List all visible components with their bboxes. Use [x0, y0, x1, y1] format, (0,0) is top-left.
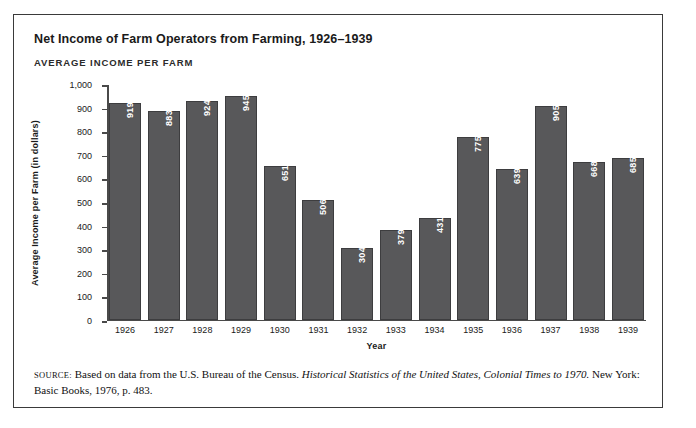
y-axis-tick-label: 100 — [48, 292, 92, 302]
bar-slot: 905 — [535, 86, 567, 320]
bar-slot: 379 — [380, 86, 412, 320]
x-axis-tick-label: 1931 — [302, 325, 334, 335]
x-axis-tick-label: 1936 — [496, 325, 528, 335]
bar[interactable]: 775 — [457, 137, 489, 320]
bar-slot: 883 — [148, 86, 180, 320]
bar[interactable]: 304 — [341, 248, 373, 320]
bar-value-label: 304 — [357, 247, 367, 263]
source-label: Source: — [34, 370, 72, 380]
bar-value-label: 775 — [473, 136, 483, 152]
bar-series: 9198839249456515063043794317756399056686… — [109, 86, 644, 320]
y-axis-tick-mark — [102, 156, 107, 158]
x-axis-tick-label: 1933 — [380, 325, 412, 335]
bar-slot: 919 — [109, 86, 141, 320]
bar[interactable]: 506 — [302, 200, 334, 319]
x-axis-tick-label: 1937 — [535, 325, 567, 335]
y-axis-tick-label: 400 — [48, 222, 92, 232]
bar-value-label: 506 — [318, 199, 328, 215]
y-axis-tick-label: 300 — [48, 245, 92, 255]
bar-value-label: 945 — [241, 96, 251, 112]
y-axis-tick-label: 600 — [48, 174, 92, 184]
y-axis-tick-labels: 01002003004005006007008009001,000 — [48, 85, 92, 321]
bar-value-label: 919 — [125, 102, 135, 118]
x-axis-tick-labels: 1926192719281929193019311932193319341935… — [109, 325, 644, 335]
y-axis-tick-label: 1,000 — [48, 80, 92, 90]
bar-value-label: 639 — [512, 168, 522, 184]
bar-slot: 685 — [612, 86, 644, 320]
source-text-before: Based on data from the U.S. Bureau of th… — [75, 368, 299, 380]
y-axis-tick-label: 0 — [48, 316, 92, 326]
y-axis-tick-mark — [102, 203, 107, 205]
bar[interactable]: 905 — [535, 106, 567, 320]
x-axis-tick-label: 1934 — [419, 325, 451, 335]
bar-slot: 651 — [264, 86, 296, 320]
bar[interactable]: 379 — [380, 230, 412, 319]
bar-value-label: 431 — [435, 217, 445, 233]
bar[interactable]: 639 — [496, 169, 528, 320]
y-axis-tick-mark — [102, 297, 107, 299]
bar[interactable]: 431 — [419, 218, 451, 320]
y-axis-tick-mark — [102, 250, 107, 252]
bar[interactable]: 945 — [225, 96, 257, 319]
y-axis-tick-label: 500 — [48, 198, 92, 208]
source-work-title: Historical Statistics of the United Stat… — [302, 368, 590, 380]
bar-slot: 668 — [573, 86, 605, 320]
y-axis-tick-label: 700 — [48, 151, 92, 161]
bar-slot: 639 — [496, 86, 528, 320]
x-axis-tick-label: 1929 — [225, 325, 257, 335]
bar[interactable]: 651 — [264, 166, 296, 320]
y-axis-tick-mark — [102, 109, 107, 111]
y-axis-tick-mark — [102, 227, 107, 229]
x-axis-title: Year — [109, 341, 644, 351]
bar-slot: 945 — [225, 86, 257, 320]
bar-value-label: 651 — [280, 165, 290, 181]
y-axis-tick-label: 800 — [48, 127, 92, 137]
bar-value-label: 924 — [202, 100, 212, 116]
x-axis-tick-label: 1927 — [148, 325, 180, 335]
chart-area: Average Income per Farm (in dollars) 010… — [34, 85, 646, 353]
bar-value-label: 668 — [589, 161, 599, 177]
bar[interactable]: 919 — [109, 103, 141, 320]
bar[interactable]: 685 — [612, 158, 644, 320]
figure-title: Net Income of Farm Operators from Farmin… — [34, 32, 373, 46]
y-axis-tick-mark — [102, 132, 107, 134]
bar[interactable]: 668 — [573, 162, 605, 320]
y-axis-tick-mark — [102, 85, 107, 87]
y-axis-tick-mark — [102, 274, 107, 276]
bar-value-label: 905 — [551, 105, 561, 121]
bar-value-label: 883 — [164, 110, 174, 126]
source-note: Source: Based on data from the U.S. Bure… — [34, 367, 642, 398]
bar-slot: 924 — [186, 86, 218, 320]
x-axis-tick-label: 1932 — [341, 325, 373, 335]
figure-subtitle: AVERAGE INCOME PER FARM — [34, 57, 193, 68]
y-axis-title: Average Income per Farm (in dollars) — [30, 85, 42, 321]
y-axis-tick-label: 200 — [48, 269, 92, 279]
plot-area: 9198839249456515063043794317756399056686… — [107, 85, 646, 321]
y-axis-tick-mark — [102, 321, 107, 323]
x-axis-tick-label: 1935 — [457, 325, 489, 335]
x-axis-tick-label: 1938 — [573, 325, 605, 335]
bar[interactable]: 924 — [186, 101, 218, 319]
bar-value-label: 685 — [628, 157, 638, 173]
x-axis-tick-label: 1939 — [612, 325, 644, 335]
bar-slot: 431 — [419, 86, 451, 320]
y-axis-tick-label: 900 — [48, 104, 92, 114]
y-axis-tick-mark — [102, 179, 107, 181]
bar[interactable]: 883 — [148, 111, 180, 319]
x-axis-tick-label: 1928 — [186, 325, 218, 335]
bar-slot: 304 — [341, 86, 373, 320]
x-axis-tick-label: 1926 — [109, 325, 141, 335]
figure-frame: Net Income of Farm Operators from Farmin… — [13, 14, 663, 408]
bar-slot: 506 — [302, 86, 334, 320]
bar-slot: 775 — [457, 86, 489, 320]
x-axis-line — [107, 320, 646, 322]
x-axis-tick-label: 1930 — [264, 325, 296, 335]
bar-value-label: 379 — [396, 229, 406, 245]
